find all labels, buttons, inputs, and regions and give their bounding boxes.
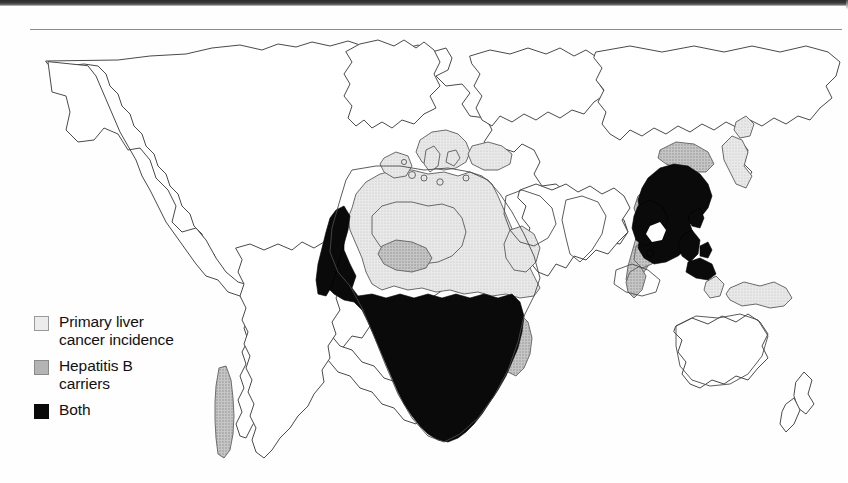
shade-light-island-2 [421,175,427,181]
region-asia-russia [594,46,840,140]
legend-item-label: Primary liver cancer incidence [59,313,174,348]
region-new-zealand-south [780,398,800,432]
shade-light-island-3 [437,179,443,185]
shade-black-philippines-south [686,258,716,280]
shade-light-island-1 [409,172,416,179]
legend-label-line2: carriers [59,375,133,393]
legend: Primary liver cancer incidence Hepatitis… [34,313,224,428]
square-swatch-icon [34,360,49,375]
shade-light-island-4 [463,175,469,181]
legend-item-label: Both [59,401,91,419]
shade-black-hainan [647,250,654,257]
shade-black-philippines-mid [700,242,712,258]
square-swatch-icon [34,316,49,331]
legend-item-label: Hepatitis B carriers [59,357,133,392]
legend-item-hepatitis-b-carriers: Hepatitis B carriers [34,357,224,392]
legend-label-line2: cancer incidence [59,331,174,349]
figure-canvas: Primary liver cancer incidence Hepatitis… [0,0,848,483]
legend-label-line1: Primary liver [59,313,174,331]
shade-light-papua-new-guinea [726,282,792,308]
square-swatch-icon [34,404,49,419]
shade-light-japan [722,136,752,188]
shade-light-island-5 [401,159,406,164]
legend-item-both: Both [34,401,224,419]
legend-item-primary-liver-cancer: Primary liver cancer incidence [34,313,224,348]
legend-label-line1: Both [59,401,91,419]
legend-label-line1: Hepatitis B [59,357,133,375]
shade-light-turkey [468,142,512,170]
region-australia [674,314,768,388]
region-europe-north [470,48,606,126]
